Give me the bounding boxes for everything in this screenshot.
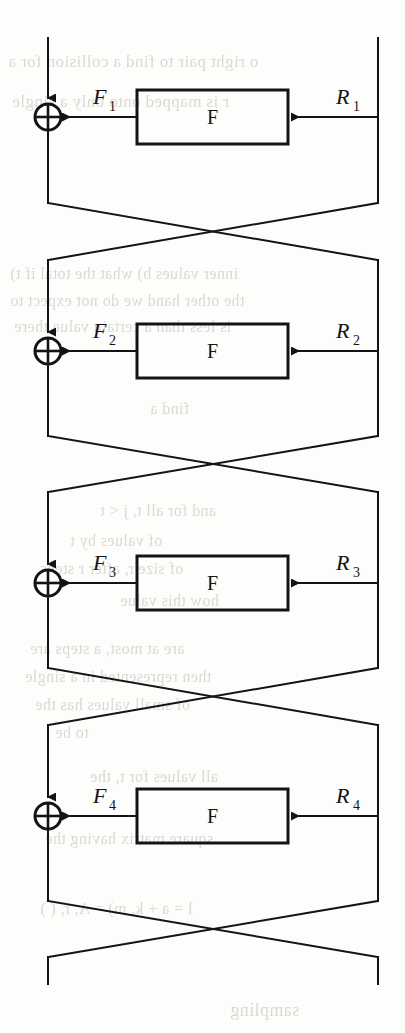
crossover-1 [48, 203, 378, 260]
scanned-page: o right pair to find a collision for ar … [0, 0, 405, 1033]
round-2-r-label: R [335, 318, 350, 343]
round-3-f-label: F [92, 550, 107, 575]
round-2-f-label-subscript: 2 [109, 333, 116, 348]
round-1-xor-gate [35, 104, 61, 130]
round-3-r-label: R [335, 550, 350, 575]
round-4-f-box-label: F [207, 805, 218, 827]
round-1-r-label: R [335, 84, 350, 109]
round-4-f-label-subscript: 4 [109, 798, 116, 813]
feistel-network-diagram: F F 1 R 1 F [0, 0, 405, 1033]
round-3-f-box-label: F [207, 572, 218, 594]
round-3-f-label-subscript: 3 [109, 565, 116, 580]
round-2-r-label-subscript: 2 [353, 333, 360, 348]
crossover-3 [48, 668, 378, 725]
round-2-f-label: F [92, 318, 107, 343]
round-3: F F 3 R 3 [35, 492, 378, 668]
round-1-f-label: F [92, 84, 107, 109]
round-4-f-label: F [92, 783, 107, 808]
crossover-4 [48, 901, 378, 984]
round-3-r-label-subscript: 3 [353, 565, 360, 580]
round-2-f-box-label: F [207, 340, 218, 362]
round-3-xor-gate [35, 570, 61, 596]
round-4-r-label-subscript: 4 [353, 798, 360, 813]
round-4-xor-gate [35, 803, 61, 829]
round-4: F F 4 R 4 [35, 725, 378, 901]
round-2-xor-gate [35, 338, 61, 364]
round-2: F F 2 R 2 [35, 260, 378, 436]
round-1: F F 1 R 1 [35, 38, 378, 203]
round-1-f-label-subscript: 1 [109, 99, 116, 114]
round-1-f-box-label: F [207, 106, 218, 128]
round-4-r-label: R [335, 783, 350, 808]
round-1-r-label-subscript: 1 [353, 99, 360, 114]
crossover-2 [48, 436, 378, 492]
